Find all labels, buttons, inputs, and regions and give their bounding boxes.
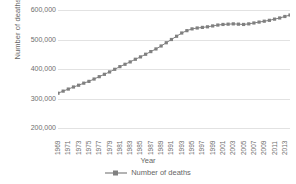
y-tick-label: 500,000 (16, 36, 56, 44)
data-point-marker (278, 16, 281, 19)
y-tick-label: 600,000 (16, 6, 56, 14)
x-tick-label: 1981 (116, 141, 123, 155)
x-tick-label: 1985 (136, 141, 143, 155)
data-point-marker (154, 47, 157, 50)
y-tick-label: 300,000 (16, 95, 56, 103)
series-number-of-deaths (58, 10, 290, 128)
data-point-marker (118, 65, 121, 68)
data-point-marker (58, 92, 60, 95)
data-point-marker (237, 23, 240, 26)
y-axis-tick-labels: 600,000500,000400,000300,000200,000 (14, 0, 56, 140)
x-tick-label: 1979 (106, 141, 113, 155)
x-tick-label: 2013 (281, 141, 288, 155)
data-point-marker (206, 25, 209, 28)
data-point-marker (227, 23, 230, 26)
data-point-marker (201, 26, 204, 29)
x-tick-label: 1977 (95, 141, 102, 155)
data-point-marker (170, 38, 173, 41)
x-tick-label: 1987 (147, 141, 154, 155)
legend-line-marker-icon (105, 169, 127, 177)
x-tick-label: 1991 (167, 141, 174, 155)
data-point-marker (92, 77, 95, 80)
data-point-marker (268, 19, 271, 22)
x-tick-label: 1995 (188, 141, 195, 155)
data-point-marker (190, 27, 193, 30)
x-tick-label: 1973 (75, 141, 82, 155)
data-point-marker (149, 50, 152, 53)
data-point-marker (247, 22, 250, 25)
data-point-marker (123, 63, 126, 66)
x-tick-label: 1969 (54, 141, 61, 155)
line-chart: Number of deaths 600,000500,000400,00030… (0, 0, 296, 184)
data-point-marker (221, 23, 224, 26)
data-point-marker (160, 44, 163, 47)
x-axis-title: Year (0, 156, 296, 165)
data-point-marker (144, 53, 147, 56)
x-axis-tick-labels: 1969197119731975197719791981198319851987… (58, 129, 290, 155)
legend-label-number-of-deaths: Number of deaths (131, 168, 191, 177)
data-point-marker (242, 23, 245, 26)
data-point-marker (77, 84, 80, 87)
data-point-marker (129, 60, 132, 63)
data-point-marker (67, 87, 70, 90)
x-tick-label: 2001 (219, 141, 226, 155)
data-point-marker (252, 21, 255, 24)
data-point-marker (82, 82, 85, 85)
plot-area (58, 10, 290, 128)
x-tick-label: 2005 (240, 141, 247, 155)
data-point-marker (175, 35, 178, 38)
data-point-marker (165, 41, 168, 44)
data-point-marker (273, 18, 276, 21)
data-point-marker (134, 58, 137, 61)
x-tick-label: 1993 (178, 141, 185, 155)
data-point-marker (87, 80, 90, 83)
data-point-marker (185, 29, 188, 32)
y-tick-label: 200,000 (16, 124, 56, 132)
x-tick-label: 2007 (250, 141, 257, 155)
data-point-marker (108, 70, 111, 73)
x-tick-label: 2003 (229, 141, 236, 155)
x-tick-label: 1997 (198, 141, 205, 155)
legend: Number of deaths (0, 168, 296, 177)
x-tick-label: 2011 (271, 141, 278, 155)
data-point-marker (62, 90, 65, 93)
data-point-marker (139, 55, 142, 58)
data-point-marker (216, 23, 219, 26)
data-point-marker (211, 24, 214, 27)
x-tick-label: 1989 (157, 141, 164, 155)
y-tick-label: 400,000 (16, 65, 56, 73)
x-tick-label: 1983 (126, 141, 133, 155)
data-point-marker (72, 85, 75, 88)
data-point-marker (263, 20, 266, 23)
data-point-marker (232, 22, 235, 25)
x-tick-label: 1999 (209, 141, 216, 155)
data-point-marker (196, 26, 199, 29)
series-line (58, 15, 290, 93)
x-tick-label: 1971 (64, 141, 71, 155)
data-point-marker (180, 31, 183, 34)
data-point-marker (98, 75, 101, 78)
data-point-marker (288, 13, 290, 16)
data-point-marker (113, 68, 116, 71)
x-tick-label: 2009 (260, 141, 267, 155)
data-point-marker (257, 20, 260, 23)
x-tick-label: 1975 (85, 141, 92, 155)
data-point-marker (283, 15, 286, 18)
data-point-marker (103, 73, 106, 76)
